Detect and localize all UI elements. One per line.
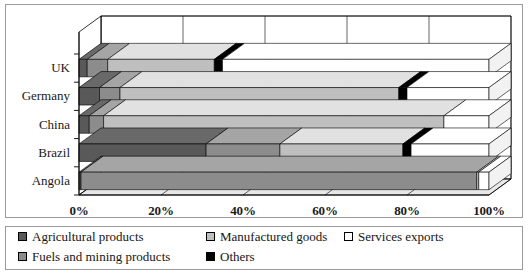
chart-screenshot: 0%20%40%60%80%100% UKGermanyChinaBrazilA… xyxy=(0,0,530,276)
legend-label-agricultural-products: Agricultural products xyxy=(32,230,144,243)
x-tick-label-20: 20% xyxy=(131,203,191,219)
plot-area-3d xyxy=(6,5,524,219)
legend-label-services-exports: Services exports xyxy=(358,230,444,243)
legend-item-others[interactable]: Others xyxy=(206,250,255,263)
legend-label-fuels-and-mining-products: Fuels and mining products xyxy=(32,250,170,263)
category-label-uk: UK xyxy=(6,60,70,76)
legend-item-services-exports[interactable]: Services exports xyxy=(344,230,444,243)
category-label-brazil: Brazil xyxy=(6,145,70,161)
x-tick-label-60: 60% xyxy=(295,203,355,219)
chart-legend: Agricultural products Manufactured goods… xyxy=(5,226,523,270)
legend-swatch-services-exports xyxy=(344,232,353,241)
legend-row-2: Fuels and mining products Others xyxy=(6,250,522,270)
legend-swatch-agricultural-products xyxy=(18,232,27,241)
legend-swatch-fuels-and-mining-products xyxy=(18,252,27,261)
x-tick-label-40: 40% xyxy=(213,203,273,219)
category-label-germany: Germany xyxy=(6,88,70,104)
category-label-china: China xyxy=(6,117,70,133)
legend-swatch-manufactured-goods xyxy=(206,232,215,241)
chart-panel: 0%20%40%60%80%100% UKGermanyChinaBrazilA… xyxy=(5,4,523,218)
legend-item-fuels-and-mining-products[interactable]: Fuels and mining products xyxy=(18,250,170,263)
x-tick-label-0: 0% xyxy=(49,203,109,219)
legend-row-1: Agricultural products Manufactured goods… xyxy=(6,230,522,250)
legend-item-agricultural-products[interactable]: Agricultural products xyxy=(18,230,144,243)
legend-label-others: Others xyxy=(220,250,255,263)
stacked-bar-3d-svg xyxy=(6,5,524,219)
legend-item-manufactured-goods[interactable]: Manufactured goods xyxy=(206,230,327,243)
legend-swatch-others xyxy=(206,252,215,261)
category-label-angola: Angola xyxy=(6,173,70,189)
x-tick-label-80: 80% xyxy=(377,203,437,219)
legend-label-manufactured-goods: Manufactured goods xyxy=(220,230,327,243)
x-tick-label-100: 100% xyxy=(459,203,519,219)
